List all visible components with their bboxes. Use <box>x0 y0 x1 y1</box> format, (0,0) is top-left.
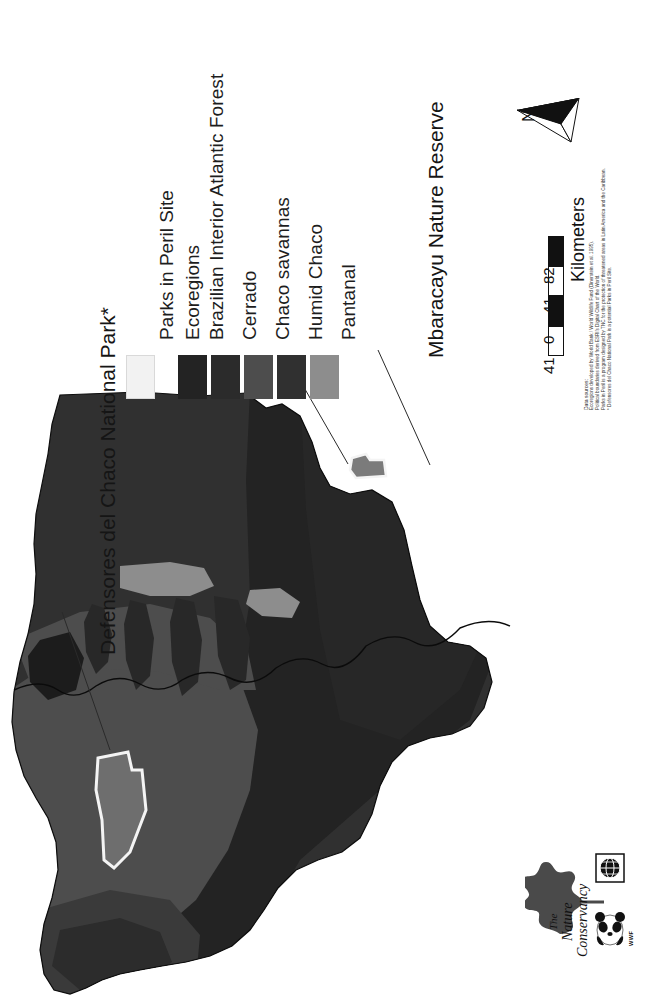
map-canvas[interactable] <box>0 390 530 997</box>
scale-tick-3: 82 <box>540 267 557 284</box>
legend-label-brazilian-interior-atlantic-forest: Brazilian Interior Atlantic Forest <box>206 74 228 340</box>
legend-heading-ecoregions: Ecoregions <box>182 245 204 340</box>
tnc-logo-line-the: The <box>547 914 559 931</box>
legend-label-humid-chaco: Humid Chaco <box>305 224 327 340</box>
legend-heading-parks-in-peril: Parks in Peril Site <box>156 190 178 340</box>
panda-icon <box>590 850 630 955</box>
map-legend: Parks in Peril Site Ecoregions Brazilian… <box>0 0 360 420</box>
label-mbaracayu-nature-reserve: Mbaracayu Nature Reserve <box>424 101 448 358</box>
legend-swatch-brazilian-interior-atlantic-forest[interactable] <box>178 355 207 399</box>
scale-seg-1 <box>548 236 564 266</box>
wwf-logo-label: WWF <box>628 930 634 946</box>
legend-swatch-chaco-savannas[interactable] <box>244 355 273 399</box>
paraguay-ecoregion-map[interactable] <box>0 390 530 997</box>
legend-label-cerrado: Cerrado <box>239 271 261 340</box>
scale-tick-0: 41 <box>540 357 557 374</box>
park-mbaracayu-nature-reserve[interactable] <box>350 454 386 478</box>
legend-label-chaco-savannas: Chaco savannas <box>272 197 294 340</box>
scale-tick-1: 0 <box>540 336 557 344</box>
scale-tick-2: 41 <box>540 297 557 314</box>
data-sources-credits: Data sources: Ecoregions developed by Wo… <box>582 210 612 410</box>
legend-swatch-cerrado[interactable] <box>211 355 240 399</box>
tnc-logo-line-nature: Nature <box>560 903 576 941</box>
legend-swatch-parks-in-peril[interactable] <box>126 355 155 399</box>
north-arrow-icon <box>505 80 595 170</box>
tnc-logo-line-conservancy: Conservancy <box>575 884 591 957</box>
credits-line-4: * Defensores del Chaco National Park is … <box>608 267 613 410</box>
north-arrow-label: N <box>519 110 539 122</box>
legend-swatch-pantanal[interactable] <box>310 355 339 399</box>
legend-swatch-humid-chaco[interactable] <box>277 355 306 399</box>
ecoregion-fills <box>0 390 530 997</box>
legend-label-pantanal: Pantanal <box>338 264 360 340</box>
